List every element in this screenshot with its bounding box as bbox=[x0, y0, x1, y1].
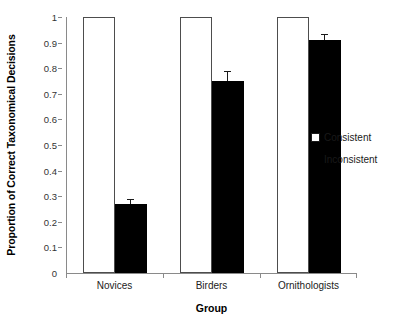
y-axis-tick-mark bbox=[58, 94, 62, 95]
x-axis-tick-marks bbox=[66, 273, 357, 279]
y-axis-tick-mark bbox=[58, 247, 62, 248]
y-axis-tick-label: 0.2 bbox=[44, 216, 57, 227]
bar-novices-consistent bbox=[83, 17, 115, 273]
y-axis-title-text: Proportion of Correct Taxonomical Decisi… bbox=[5, 34, 17, 255]
legend-label: Inconsistent bbox=[324, 154, 377, 165]
legend-item-consistent: Consistent bbox=[311, 126, 397, 148]
error-bar-cap-birders bbox=[224, 71, 231, 72]
y-axis-tick-mark bbox=[58, 196, 62, 197]
y-axis-tick-label: 0.3 bbox=[44, 191, 57, 202]
y-axis-tick-mark bbox=[58, 68, 62, 69]
y-axis-tick-label: 1 bbox=[52, 12, 57, 23]
y-axis-tick-label: 0.5 bbox=[44, 140, 57, 151]
x-axis-label-ornithologists: Ornithologists bbox=[278, 280, 339, 291]
y-axis-tick-label: 0.7 bbox=[44, 88, 57, 99]
y-axis-tick-label: 0.9 bbox=[44, 37, 57, 48]
y-axis-tick-mark bbox=[58, 145, 62, 146]
y-axis-tick-group: 00.10.20.30.40.50.60.70.80.91 bbox=[22, 0, 62, 329]
filled-square-swatch bbox=[311, 155, 320, 164]
y-axis-tick-label: 0.1 bbox=[44, 242, 57, 253]
bar-ornithologists-consistent bbox=[277, 17, 309, 273]
y-axis-tick-mark bbox=[58, 43, 62, 44]
y-axis-tick-label: 0.8 bbox=[44, 63, 57, 74]
y-axis-line bbox=[66, 17, 67, 273]
error-bar-cap-novices bbox=[127, 199, 134, 200]
y-axis-tick-mark bbox=[58, 17, 62, 18]
y-axis-tick-label: 0.6 bbox=[44, 114, 57, 125]
y-axis-tick-mark bbox=[58, 222, 62, 223]
y-axis-tick-mark bbox=[58, 171, 62, 172]
x-axis-tick-mark bbox=[356, 273, 357, 278]
x-axis-tick-mark bbox=[163, 273, 164, 278]
y-axis-title: Proportion of Correct Taxonomical Decisi… bbox=[0, 0, 22, 290]
legend-item-inconsistent: Inconsistent bbox=[311, 148, 397, 170]
bar-birders-inconsistent bbox=[212, 81, 244, 273]
y-axis-tick-label: 0 bbox=[52, 268, 57, 279]
x-axis-tick-labels: NovicesBirdersOrnithologists bbox=[66, 280, 357, 298]
x-axis-title: Group bbox=[66, 302, 357, 314]
error-bar-cap-ornithologists bbox=[321, 34, 328, 35]
y-axis-tick-mark bbox=[58, 119, 62, 120]
open-square-swatch bbox=[311, 133, 320, 142]
x-axis-tick-mark bbox=[260, 273, 261, 278]
chart-legend: ConsistentInconsistent bbox=[311, 126, 397, 170]
x-axis-tick-mark bbox=[66, 273, 67, 278]
legend-label: Consistent bbox=[324, 132, 371, 143]
x-axis-label-novices: Novices bbox=[97, 280, 133, 291]
bar-birders-consistent bbox=[180, 17, 212, 273]
bar-novices-inconsistent bbox=[115, 204, 147, 273]
y-axis-tick-label: 0.4 bbox=[44, 165, 57, 176]
error-bar-birders bbox=[227, 71, 228, 81]
x-axis-label-birders: Birders bbox=[196, 280, 228, 291]
bar-chart-figure: Proportion of Correct Taxonomical Decisi… bbox=[0, 0, 397, 329]
